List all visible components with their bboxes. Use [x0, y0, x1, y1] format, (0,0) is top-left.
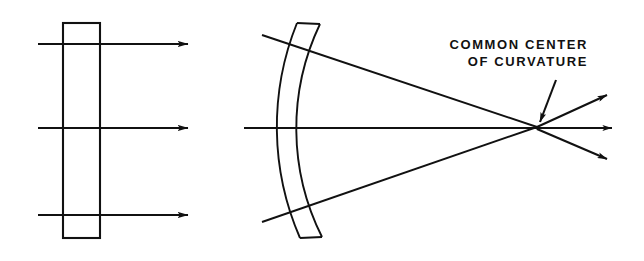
figure-container: COMMON CENTER OF CURVATURE: [0, 0, 644, 261]
meniscus-top-edge: [297, 23, 320, 24]
left-plate-group: [38, 23, 188, 238]
common-center-of-curvature-label: COMMON CENTER OF CURVATURE: [402, 36, 588, 70]
meniscus-bottom-edge: [300, 237, 322, 238]
diverging-ray-lower: [537, 129, 607, 159]
converging-ray-lower: [262, 127, 537, 222]
plane-parallel-plate-outline: [63, 23, 100, 238]
common-center-of-curvature-point: [536, 127, 539, 130]
common-center-leader-arrow: [540, 80, 556, 122]
label-line-1: COMMON CENTER: [402, 36, 588, 53]
label-line-2: OF CURVATURE: [402, 53, 588, 70]
